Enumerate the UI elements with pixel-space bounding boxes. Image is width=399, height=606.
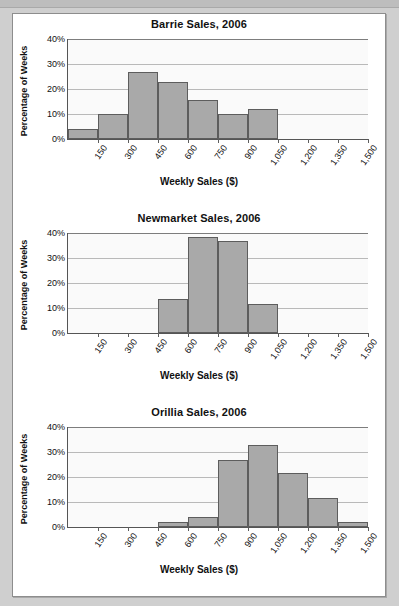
x-tick-label: 1,050 [268, 337, 289, 361]
x-tick-label: 600 [182, 337, 199, 355]
gridline [68, 39, 368, 40]
x-tick-label: 1,200 [298, 143, 319, 167]
y-tick-label: 40% [17, 34, 65, 44]
x-tick-label: 1,500 [358, 337, 379, 361]
plot-area [67, 39, 368, 140]
bar [218, 114, 248, 139]
chart-block-newmarket: Newmarket Sales, 2006 Percentage of Week… [13, 208, 385, 402]
chart-title: Newmarket Sales, 2006 [13, 212, 385, 224]
bar [308, 498, 338, 527]
x-axis-label: Weekly Sales ($) [13, 176, 385, 187]
y-tick-label: 10% [17, 303, 65, 313]
x-tick-label: 300 [122, 531, 139, 549]
y-tick-label: 10% [17, 109, 65, 119]
chart-block-orillia: Orillia Sales, 2006 Percentage of Weeks … [13, 402, 385, 596]
bar [248, 304, 278, 333]
y-tick-label: 10% [17, 497, 65, 507]
y-tick-label: 20% [17, 278, 65, 288]
y-axis-ticks: 0%10%20%30%40% [13, 427, 65, 527]
y-axis-ticks: 0%10%20%30%40% [13, 233, 65, 333]
bar [158, 82, 188, 140]
x-tick-label: 300 [122, 337, 139, 355]
x-tick-label: 150 [92, 143, 109, 161]
bar [68, 129, 98, 139]
bar [188, 237, 218, 333]
x-tick-label: 450 [152, 143, 169, 161]
bar [98, 114, 128, 139]
x-tick-label: 750 [212, 531, 229, 549]
x-tick [368, 527, 369, 531]
gridline [68, 89, 368, 90]
top-strip [0, 0, 399, 8]
x-tick-label: 600 [182, 531, 199, 549]
x-tick-label: 1,350 [328, 531, 349, 555]
x-tick-label: 150 [92, 531, 109, 549]
gridline [68, 427, 368, 428]
x-axis-ticks: 1503004506007509001,0501,2001,3501,500 [67, 527, 367, 567]
bar [248, 109, 278, 139]
x-tick-label: 300 [122, 143, 139, 161]
y-tick-label: 30% [17, 59, 65, 69]
gridline [68, 64, 368, 65]
document-panel: Barrie Sales, 2006 Percentage of Weeks 0… [12, 13, 386, 597]
x-tick [368, 333, 369, 337]
y-tick-label: 20% [17, 84, 65, 94]
x-axis-ticks: 1503004506007509001,0501,2001,3501,500 [67, 139, 367, 179]
y-tick-label: 20% [17, 472, 65, 482]
y-tick-label: 40% [17, 228, 65, 238]
x-tick-label: 1,350 [328, 337, 349, 361]
y-tick-label: 0% [17, 134, 65, 144]
bar [218, 460, 248, 528]
y-tick-label: 40% [17, 422, 65, 432]
x-tick-label: 1,200 [298, 531, 319, 555]
x-tick-label: 900 [242, 337, 259, 355]
x-tick-label: 1,050 [268, 531, 289, 555]
y-tick-label: 0% [17, 522, 65, 532]
gridline [68, 233, 368, 234]
y-tick-label: 0% [17, 328, 65, 338]
x-axis-ticks: 1503004506007509001,0501,2001,3501,500 [67, 333, 367, 373]
bar [128, 72, 158, 140]
bar [248, 445, 278, 528]
x-tick-label: 1,500 [358, 531, 379, 555]
x-tick-label: 750 [212, 337, 229, 355]
plot-area [67, 427, 368, 528]
x-tick-label: 900 [242, 143, 259, 161]
y-axis-ticks: 0%10%20%30%40% [13, 39, 65, 139]
bar [218, 241, 248, 334]
x-tick-label: 450 [152, 337, 169, 355]
x-tick-label: 1,500 [358, 143, 379, 167]
plot-area [67, 233, 368, 334]
bar [188, 517, 218, 527]
x-tick-label: 1,050 [268, 143, 289, 167]
chart-title: Orillia Sales, 2006 [13, 406, 385, 418]
bar [278, 473, 308, 527]
chart-title: Barrie Sales, 2006 [13, 18, 385, 30]
x-tick-label: 1,200 [298, 337, 319, 361]
chart-block-barrie: Barrie Sales, 2006 Percentage of Weeks 0… [13, 14, 385, 208]
gridline [68, 452, 368, 453]
x-tick-label: 600 [182, 143, 199, 161]
bar [158, 299, 188, 333]
x-tick-label: 1,350 [328, 143, 349, 167]
y-tick-label: 30% [17, 253, 65, 263]
x-tick-label: 900 [242, 531, 259, 549]
page-background: Barrie Sales, 2006 Percentage of Weeks 0… [0, 0, 399, 606]
x-tick [368, 139, 369, 143]
x-axis-label: Weekly Sales ($) [13, 564, 385, 575]
y-tick-label: 30% [17, 447, 65, 457]
bar [188, 100, 218, 139]
x-tick-label: 750 [212, 143, 229, 161]
x-tick-label: 150 [92, 337, 109, 355]
x-tick-label: 450 [152, 531, 169, 549]
x-axis-label: Weekly Sales ($) [13, 370, 385, 381]
